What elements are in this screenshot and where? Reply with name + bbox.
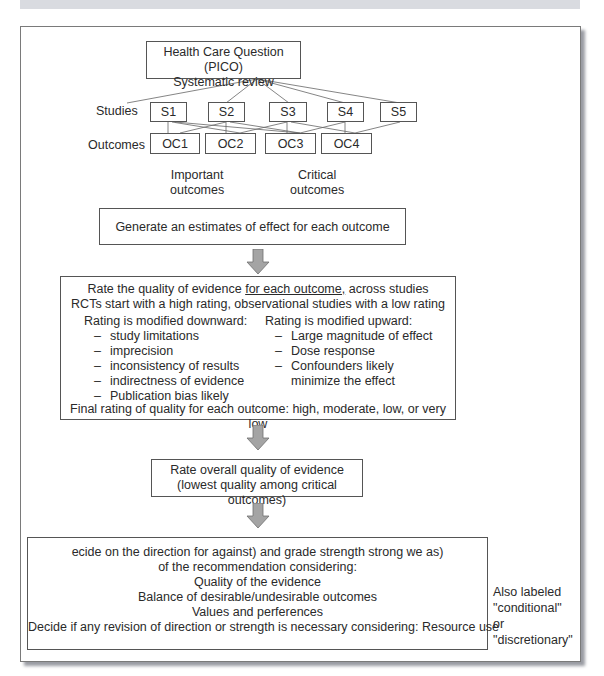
pico-title: Health Care Question (PICO) [147,45,300,75]
item-text: indirectness of evidence [110,374,244,388]
study-label: S2 [219,105,234,119]
rating-title: Rate the quality of evidence for each ou… [61,282,455,297]
rating-title-post: across studies [345,282,428,296]
upward-factors-list: Rating is modified upward: –Large magnit… [265,314,433,389]
outcome-label: OC3 [278,137,304,151]
item-text: Large magnitude of effect [291,329,433,343]
downward-item: –imprecision [84,344,247,359]
study-label: S5 [391,105,406,119]
downward-factors-list: Rating is modified downward: –study limi… [84,314,247,404]
study-box-s2: S2 [208,102,245,122]
item-text: minimize the effect [291,374,395,388]
side-note-line: or [493,616,573,632]
decision-line: of the recommendation considering: [28,560,487,575]
outcome-box-oc3: OC3 [265,133,316,154]
study-box-s4: S4 [327,102,364,122]
study-label: S1 [161,105,176,119]
overall-quality-box: Rate overall quality of evidence (lowest… [151,459,363,497]
item-text: Dose response [291,344,375,358]
group-label-line: Important [170,168,224,183]
downward-item: –study limitations [84,329,247,344]
item-text: inconsistency of results [110,359,239,373]
upward-heading: Rating is modified upward: [265,314,433,329]
recommendation-decision-box: ecide on the direction for against) and … [27,537,488,650]
dash-icon: – [275,329,291,344]
pico-subtitle: Systematic review [147,75,300,90]
outcome-label: OC1 [162,137,188,151]
rating-title-pre: Rate the quality of evidence [87,282,245,296]
group-label-line: Critical [290,168,344,183]
downward-item: –indirectness of evidence [84,374,247,389]
downward-heading: Rating is modified downward: [84,314,247,329]
item-text: Publication bias likely [110,389,229,403]
decision-line: ecide on the direction for against) and … [28,545,487,560]
dash-icon: – [94,344,110,359]
upward-item-continuation: minimize the effect [265,374,433,389]
rating-subtitle: RCTs start with a high rating, observati… [61,297,455,312]
dash-icon: – [275,359,291,374]
study-box-s1: S1 [150,102,187,122]
estimate-effect-box: Generate an estimates of effect for each… [99,208,406,245]
outcome-box-oc1: OC1 [150,133,200,154]
pico-question-box: Health Care Question (PICO) Systematic r… [146,41,301,79]
study-label: S3 [280,105,295,119]
group-label-line: outcomes [290,183,344,198]
down-arrow-icon [246,425,270,451]
decision-line: Decide if any revision of direction or s… [28,620,487,635]
outcomes-label: Outcomes [88,138,145,153]
dash-icon: – [94,359,110,374]
outcome-label: OC2 [218,137,244,151]
down-arrow-icon [246,503,270,529]
critical-outcomes-label: Critical outcomes [290,168,344,198]
decision-line: Quality of the evidence [28,575,487,590]
overall-quality-title: Rate overall quality of evidence [152,463,362,478]
item-text: imprecision [110,344,173,358]
upward-item: –Confounders likely [265,359,433,374]
dash-icon: – [94,374,110,389]
study-box-s5: S5 [380,102,417,122]
group-label-line: outcomes [170,183,224,198]
studies-label: Studies [96,104,138,119]
decision-line: Balance of desirable/undesirable outcome… [28,590,487,605]
upward-item: –Dose response [265,344,433,359]
dash-icon: – [275,344,291,359]
estimate-effect-text: Generate an estimates of effect for each… [115,220,389,234]
study-label: S4 [338,105,353,119]
downward-item: –inconsistency of results [84,359,247,374]
outcome-label: OC4 [334,137,360,151]
outcome-box-oc2: OC2 [205,133,256,154]
side-note-line: Also labeled [493,584,573,600]
side-note-line: "conditional" [493,600,573,616]
side-note-line: "discretionary" [493,632,573,648]
item-text: study limitations [110,329,199,343]
important-outcomes-label: Important outcomes [170,168,224,198]
side-note: Also labeled "conditional" or "discretio… [493,584,573,648]
rating-title-underlined: for each outcome, [245,282,345,296]
decision-line: Values and perferences [28,605,487,620]
study-box-s3: S3 [269,102,307,122]
down-arrow-icon [246,249,270,275]
item-text: Confounders likely [291,359,394,373]
outcome-box-oc4: OC4 [321,133,372,154]
dash-icon: – [94,329,110,344]
upward-item: –Large magnitude of effect [265,329,433,344]
